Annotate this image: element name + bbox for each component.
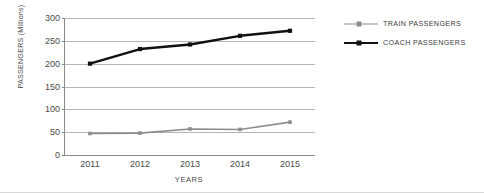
x-axis-title: YEARS	[64, 175, 314, 184]
chart-legend: TRAIN PASSENGERSCOACH PASSENGERS	[344, 14, 484, 52]
y-axis-title: PASSENGERS (Millions)	[16, 0, 25, 107]
plot-area: 050100150200250300 20112012201320142015	[64, 18, 315, 156]
data-point-marker	[238, 128, 242, 132]
x-axis-tick-label: 2011	[80, 159, 99, 169]
y-axis-tick-mark	[62, 155, 65, 156]
chart-page: PASSENGERS (Millions) 050100150200250300…	[0, 0, 484, 193]
series-line	[90, 31, 290, 64]
y-axis-tick-label: 50	[50, 127, 60, 137]
x-axis-tick-label: 2012	[130, 159, 150, 169]
legend-item[interactable]: COACH PASSENGERS	[344, 33, 484, 52]
legend-swatch	[344, 18, 378, 30]
x-axis-tick-label: 2015	[280, 159, 300, 169]
data-point-marker	[188, 42, 192, 46]
data-point-marker	[288, 120, 292, 124]
y-axis-tick-label: 200	[45, 59, 60, 69]
y-axis-tick-label: 100	[45, 104, 60, 114]
series-layer	[65, 18, 315, 155]
legend-marker	[357, 21, 362, 26]
y-axis-tick-label: 300	[45, 13, 60, 23]
data-point-marker	[188, 127, 192, 131]
legend-swatch	[344, 37, 378, 49]
data-point-marker	[88, 62, 92, 66]
legend-item[interactable]: TRAIN PASSENGERS	[344, 14, 484, 33]
y-axis-tick-label: 0	[55, 150, 60, 160]
data-point-marker	[138, 47, 142, 51]
y-axis-tick-label: 250	[45, 36, 60, 46]
y-axis-tick-label: 150	[45, 82, 60, 92]
x-axis-tick-label: 2014	[230, 159, 250, 169]
data-point-marker	[138, 131, 142, 135]
legend-label: TRAIN PASSENGERS	[383, 19, 461, 28]
legend-label: COACH PASSENGERS	[383, 38, 466, 47]
line-chart: PASSENGERS (Millions) 050100150200250300…	[0, 0, 340, 193]
x-axis-tick-label: 2013	[180, 159, 200, 169]
legend-marker	[357, 40, 362, 45]
data-point-marker	[238, 34, 242, 38]
data-point-marker	[288, 29, 292, 33]
data-point-marker	[88, 132, 92, 136]
